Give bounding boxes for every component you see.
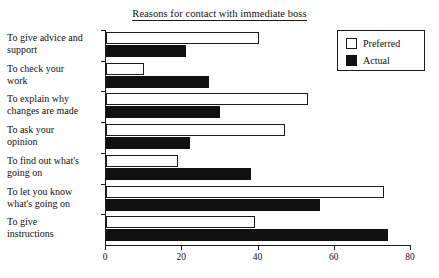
bar-actual bbox=[106, 106, 220, 118]
category-label: To give advice andsupport bbox=[7, 32, 103, 55]
category-label-line: going on bbox=[7, 167, 103, 179]
actual-swatch-icon bbox=[346, 55, 357, 66]
category-label-line: To ask your bbox=[7, 124, 103, 136]
bar-actual bbox=[106, 137, 190, 149]
bar-group bbox=[106, 122, 411, 153]
bar-actual bbox=[106, 76, 209, 88]
x-tick-mark bbox=[105, 245, 106, 250]
x-tick-label: 0 bbox=[103, 252, 108, 262]
preferred-swatch-icon bbox=[346, 38, 357, 49]
category-label-line: instructions bbox=[7, 228, 103, 240]
category-label-line: To let you know bbox=[7, 186, 103, 198]
bar-preferred bbox=[106, 124, 285, 136]
bar-actual bbox=[106, 168, 251, 180]
bar-chart: Reasons for contact with immediate boss … bbox=[0, 0, 439, 278]
category-axis-labels: To give advice andsupportTo check yourwo… bbox=[9, 30, 103, 245]
category-label-line: work bbox=[7, 75, 103, 87]
bar-preferred bbox=[106, 216, 255, 228]
bar-preferred bbox=[106, 93, 308, 105]
x-tick-label: 80 bbox=[405, 252, 415, 262]
category-label-line: To explain why bbox=[7, 93, 103, 105]
category-label-line: support bbox=[7, 44, 103, 56]
x-tick-mark bbox=[181, 245, 182, 250]
legend-label-actual: Actual bbox=[363, 55, 390, 66]
y-tick-mark bbox=[101, 61, 105, 62]
bar-group bbox=[106, 184, 411, 215]
bar-preferred bbox=[106, 186, 384, 198]
category-label-line: To give advice and bbox=[7, 32, 103, 44]
chart-title-text: Reasons for contact with immediate boss bbox=[132, 8, 306, 21]
bar-preferred bbox=[106, 32, 259, 44]
bar-group bbox=[106, 153, 411, 184]
category-label: To let you knowwhat's going on bbox=[7, 186, 103, 209]
category-label-line: opinion bbox=[7, 136, 103, 148]
category-label: To check yourwork bbox=[7, 63, 103, 86]
bar-preferred bbox=[106, 63, 144, 75]
bar-actual bbox=[106, 229, 388, 241]
y-tick-mark bbox=[101, 91, 105, 92]
category-label-line: To find out what's bbox=[7, 155, 103, 167]
bar-actual bbox=[106, 199, 320, 211]
category-label: To find out what'sgoing on bbox=[7, 155, 103, 178]
x-tick-label: 20 bbox=[177, 252, 187, 262]
category-label-line: To check your bbox=[7, 63, 103, 75]
category-label: To explain whychanges are made bbox=[7, 93, 103, 116]
bar-actual bbox=[106, 45, 186, 57]
legend-label-preferred: Preferred bbox=[363, 38, 400, 49]
bar-group bbox=[106, 91, 411, 122]
y-tick-mark bbox=[101, 30, 105, 31]
x-tick-label: 60 bbox=[329, 252, 339, 262]
x-tick-mark bbox=[334, 245, 335, 250]
x-tick-mark bbox=[258, 245, 259, 250]
y-tick-mark bbox=[101, 153, 105, 154]
chart-legend: Preferred Actual bbox=[337, 30, 425, 71]
category-label: To giveinstructions bbox=[7, 216, 103, 239]
y-tick-mark bbox=[101, 184, 105, 185]
legend-item-actual: Actual bbox=[346, 53, 390, 67]
chart-title: Reasons for contact with immediate boss bbox=[0, 8, 439, 19]
bar-group bbox=[106, 214, 411, 245]
legend-item-preferred: Preferred bbox=[346, 36, 400, 50]
category-label-line: To give bbox=[7, 216, 103, 228]
x-tick-mark bbox=[410, 245, 411, 250]
y-tick-mark bbox=[101, 214, 105, 215]
y-tick-mark bbox=[101, 122, 105, 123]
x-tick-label: 40 bbox=[253, 252, 263, 262]
category-label-line: what's going on bbox=[7, 198, 103, 210]
category-label: To ask youropinion bbox=[7, 124, 103, 147]
bar-preferred bbox=[106, 155, 178, 167]
category-label-line: changes are made bbox=[7, 105, 103, 117]
